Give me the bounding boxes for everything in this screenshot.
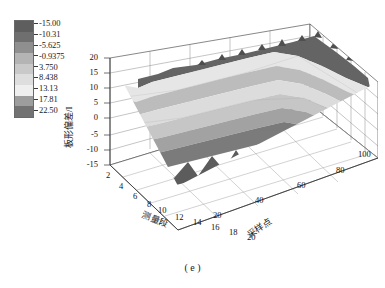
colorbar-band-2 <box>15 32 33 43</box>
colorbar-tick-3: -5.625 <box>34 39 60 49</box>
z-tick-label-5: 5 <box>76 97 98 107</box>
colorbar-tick-dash <box>34 45 38 46</box>
colorbar: -15.00-10.31-5.625-0.93753.7508.43813.13… <box>14 18 84 120</box>
colorbar-band-7 <box>15 85 33 96</box>
colorbar-tick-dash <box>34 55 38 56</box>
y-tick-label-60: 60 <box>297 180 306 190</box>
colorbar-tick-value: -5.625 <box>39 40 60 50</box>
colorbar-tick-value: 13.13 <box>39 84 58 94</box>
colorbar-tick-6: 8.438 <box>34 71 58 81</box>
colorbar-tick-dash <box>34 77 38 78</box>
colorbar-tick-dash <box>34 34 38 35</box>
y-tick-label-100: 100 <box>358 149 371 159</box>
axes-3d <box>78 18 378 244</box>
colorbar-band-3 <box>15 42 33 53</box>
colorbar-tick-value: 17.81 <box>39 95 58 105</box>
z-tick-label-m10: -10 <box>71 144 98 154</box>
colorbar-band-8 <box>15 96 33 107</box>
colorbar-band-5 <box>15 64 33 75</box>
z-tick-label-10: 10 <box>76 82 98 92</box>
colorbar-tick-5: 3.750 <box>34 61 58 71</box>
x-tick-label-2: 2 <box>106 170 110 180</box>
x-tick-label-14: 14 <box>193 217 202 227</box>
z-axis-label: 板形偏差/I <box>62 107 75 149</box>
x-tick-label-8: 8 <box>147 199 151 209</box>
colorbar-band-9 <box>15 106 33 117</box>
colorbar-band-4 <box>15 53 33 64</box>
z-tick-label-20: 20 <box>76 52 98 62</box>
colorbar-tick-value: -15.00 <box>39 18 60 28</box>
z-tick-label-m15: -15 <box>71 159 98 169</box>
x-tick-label-6: 6 <box>133 191 137 201</box>
y-tick-label-20: 20 <box>213 210 222 220</box>
x-tick-label-16: 16 <box>211 222 220 232</box>
colorbar-tick-value: 8.438 <box>39 73 58 83</box>
colorbar-tick-value: -0.9375 <box>39 51 65 61</box>
z-tick-label-0: 0 <box>76 112 98 122</box>
colorbar-tick-dash <box>34 23 38 24</box>
colorbar-tick-1: -15.00 <box>34 17 60 27</box>
colorbar-tick-value: 3.750 <box>39 62 58 72</box>
flatness-deviation-surface-figure: -15.00-10.31-5.625-0.93753.7508.43813.13… <box>0 0 385 288</box>
colorbar-tick-7: 13.13 <box>34 82 58 92</box>
x-tick-label-12: 12 <box>175 212 184 222</box>
colorbar-swatches <box>14 20 34 118</box>
colorbar-tick-dash <box>34 110 38 111</box>
colorbar-tick-8: 17.81 <box>34 93 58 103</box>
colorbar-tick-4: -0.9375 <box>34 50 65 60</box>
colorbar-tick-value: -10.31 <box>39 29 60 39</box>
x-tick-label-18: 18 <box>229 227 238 237</box>
x-tick-label-4: 4 <box>119 181 123 191</box>
colorbar-band-1 <box>15 21 33 32</box>
colorbar-tick-dash <box>34 88 38 89</box>
z-axis-ticks <box>104 58 110 165</box>
y-tick-label-80: 80 <box>336 165 345 175</box>
y-tick-label-40: 40 <box>255 195 264 205</box>
z-tick-label-15: 15 <box>76 67 98 77</box>
colorbar-tick-dash <box>34 66 38 67</box>
colorbar-tick-9: 22.50 <box>34 104 58 114</box>
z-tick-label-m5: -5 <box>74 129 98 139</box>
figure-caption: ( e ) <box>0 262 385 273</box>
plot-area: 20 15 10 5 0 -5 -10 -15 板形偏差/I 2 4 6 8 1… <box>78 18 378 244</box>
colorbar-tick-dash <box>34 99 38 100</box>
colorbar-tick-2: -10.31 <box>34 28 60 38</box>
colorbar-band-6 <box>15 74 33 85</box>
colorbar-tick-value: 22.50 <box>39 105 58 115</box>
